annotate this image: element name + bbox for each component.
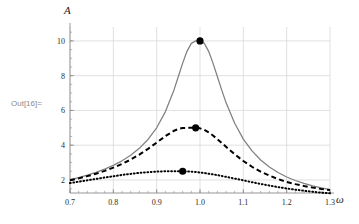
resonance-plot[interactable]: 0.70.80.91.01.11.21.3 246810 A ω [0, 0, 359, 224]
grid-lines [70, 27, 330, 193]
x-tick-label: 1.3 [325, 198, 335, 207]
x-tick-label: 1.2 [282, 198, 292, 207]
y-tick-label: 2 [61, 176, 65, 185]
y-axis-title: A [63, 4, 71, 16]
notebook-output-cell: Out[16]= 0.70.80.91.01.11.21.3 246810 A … [0, 0, 359, 224]
x-tick-label: 0.7 [65, 198, 75, 207]
peak-marker-3 [179, 168, 186, 175]
x-tick-label: 0.9 [152, 198, 162, 207]
x-axis-tick-labels: 0.70.80.91.01.11.21.3 [65, 198, 335, 207]
peak-marker-2 [192, 124, 199, 131]
chart-canvas: 0.70.80.91.01.11.21.3 246810 A ω [0, 0, 359, 224]
x-tick-label: 1.0 [195, 198, 205, 207]
x-tick-label: 0.8 [108, 198, 118, 207]
y-tick-label: 8 [61, 72, 65, 81]
y-tick-label: 10 [57, 37, 65, 46]
y-axis-tick-labels: 246810 [57, 37, 65, 185]
x-tick-label: 1.1 [238, 198, 248, 207]
x-axis-title: ω [336, 193, 344, 205]
y-tick-label: 4 [61, 141, 65, 150]
peak-marker-1 [196, 37, 203, 44]
y-tick-label: 6 [61, 106, 65, 115]
